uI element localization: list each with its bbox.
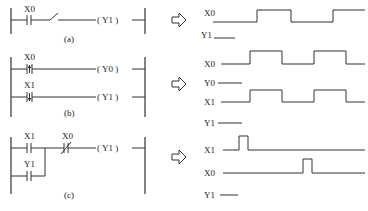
signal-label: X0 — [204, 168, 215, 178]
waveform-x0 — [223, 159, 365, 173]
coil-y1: ( Y1 ) — [97, 15, 118, 25]
contact-rising-edge-x0 — [27, 64, 32, 74]
signal-label: X0 — [204, 8, 215, 18]
waveform-x0 — [213, 10, 365, 22]
caption: (a) — [64, 34, 74, 44]
hollow-right-arrow-icon — [172, 13, 186, 27]
contact-falling-edge-x1 — [27, 92, 32, 102]
contact-label: X1 — [24, 131, 35, 141]
open-switch — [50, 13, 58, 20]
timing-c: X1 X0 Y1 — [204, 136, 365, 200]
waveform-x1 — [223, 136, 365, 150]
signal-label: Y1 — [201, 30, 212, 40]
ladder-timing-diagram: X0 ( Y1 ) (a) X0 Y1 X0 ( Y0 ) — [0, 0, 368, 211]
ladder-a: X0 ( Y1 ) (a) — [11, 4, 145, 44]
contact-label: X0 — [24, 4, 35, 14]
timing-b: X0 Y0 X1 Y1 — [204, 51, 365, 128]
waveform-x1 — [221, 90, 365, 102]
coil-y1: ( Y1 ) — [97, 92, 118, 102]
timing-a: X0 Y1 — [201, 8, 365, 40]
caption: (c) — [64, 190, 74, 200]
hollow-right-arrow-icon — [172, 150, 186, 164]
caption: (b) — [64, 108, 75, 118]
waveform-x0 — [221, 51, 365, 64]
contact-label: X1 — [24, 80, 35, 90]
contact-label: X0 — [24, 52, 35, 62]
signal-label: Y1 — [204, 118, 215, 128]
signal-label: Y0 — [204, 78, 215, 88]
signal-label: X0 — [204, 59, 215, 69]
signal-label: X1 — [204, 97, 215, 107]
contact-label: X0 — [62, 131, 73, 141]
contact-no-y1 — [27, 171, 31, 181]
ladder-b: X0 ( Y0 ) X1 ( Y1 ) (b) — [11, 52, 145, 118]
ladder-c: X1 Y1 X0 ( Y1 ) (c) — [11, 131, 145, 200]
coil-y0: ( Y0 ) — [97, 64, 118, 74]
contact-label: Y1 — [24, 159, 35, 169]
signal-label: Y1 — [204, 190, 215, 200]
contact-no-x1 — [27, 143, 31, 153]
coil-y1: ( Y1 ) — [97, 143, 118, 153]
signal-label: X1 — [204, 145, 215, 155]
contact-no-x0 — [27, 15, 31, 25]
hollow-right-arrow-icon — [172, 77, 186, 91]
